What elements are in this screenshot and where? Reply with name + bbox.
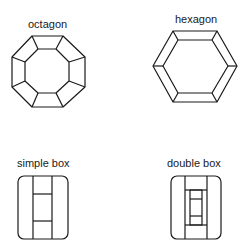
hexagon-shape (153, 31, 237, 102)
double-box-shape (171, 176, 221, 239)
octagon-shape (12, 36, 85, 107)
shapes-diagram (0, 0, 251, 241)
simple-box-shape (18, 176, 68, 239)
